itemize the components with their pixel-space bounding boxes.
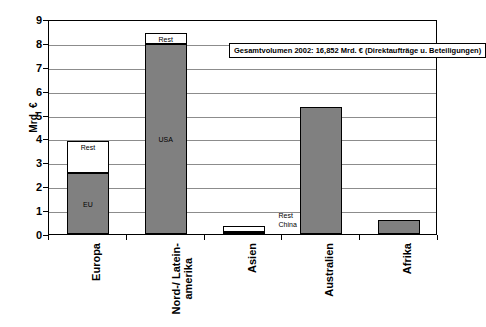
bar-segment: EU [67,173,109,234]
bar-callout-label: Rest [279,212,293,220]
x-axis-label: Afrika [402,243,414,274]
plot-area: EURestUSARest RestChina Gesamtvolumen 20… [48,20,437,235]
y-tick-label: 4 [16,134,42,144]
bar-segment-label: Rest [146,36,186,44]
y-tick-label: 0 [16,230,42,240]
x-axis-label: Asien [247,243,259,273]
y-tick-label: 8 [16,39,42,49]
bar-segment-label: Rest [68,144,108,152]
chart-title-box: Gesamtvolumen 2002: 16,852 Mrd. € (Direk… [229,43,486,58]
x-tick-mark [204,235,205,240]
bar-segment: Rest [145,33,187,44]
bar-segment [378,220,420,234]
x-axis-label: Australien [324,243,336,297]
x-tick-mark [359,235,360,240]
gridline [49,117,436,118]
y-tick-label: 3 [16,158,42,168]
y-tick-label: 5 [16,111,42,121]
y-tick-label: 7 [16,63,42,73]
bar-segment [223,226,265,232]
y-tick-label: 1 [16,206,42,216]
bar-segment: USA [145,44,187,234]
x-axis-label: Nord-/ Latein- amerika [171,243,194,315]
bar-callout-label: China [279,221,297,229]
y-tick-label: 2 [16,182,42,192]
bar-segment: Rest [67,141,109,173]
x-tick-mark [281,235,282,240]
y-tick-label: 9 [16,15,42,25]
bar-segment [223,232,265,234]
x-tick-mark [48,235,49,240]
gridline [49,69,436,70]
gridline [49,93,436,94]
x-tick-mark [126,235,127,240]
x-tick-mark [437,235,438,240]
bar-segment-label: USA [146,136,186,144]
bar-segment-label: EU [68,201,108,209]
x-axis-label: Europa [91,243,103,281]
y-tick-label: 6 [16,87,42,97]
bar-segment [300,107,342,234]
